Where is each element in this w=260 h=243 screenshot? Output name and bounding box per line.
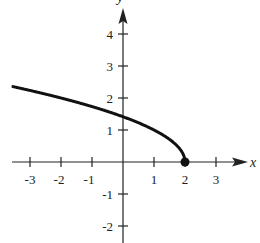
y-tick-label: 2 <box>107 91 114 106</box>
x-tick-label: -2 <box>54 172 65 187</box>
x-tick-label: 1 <box>151 172 158 187</box>
y-tick-label: 4 <box>107 27 114 42</box>
function-curve <box>13 87 185 162</box>
y-tick-label: -2 <box>102 219 113 234</box>
x-tick-label: -3 <box>25 172 36 187</box>
y-axis-label: y <box>115 0 124 5</box>
y-tick-label: 3 <box>107 59 114 74</box>
function-graph: -3 -2 -1 1 2 3 4 3 2 1 -1 -2 x y <box>0 0 260 243</box>
endpoint-marker <box>181 158 190 167</box>
x-tick-label: 2 <box>182 172 189 187</box>
x-tick-label: 3 <box>213 172 220 187</box>
x-tick-label: -1 <box>84 172 95 187</box>
x-axis-label: x <box>249 155 257 170</box>
y-tick-label: 1 <box>107 123 114 138</box>
y-tick-label: -1 <box>102 187 113 202</box>
